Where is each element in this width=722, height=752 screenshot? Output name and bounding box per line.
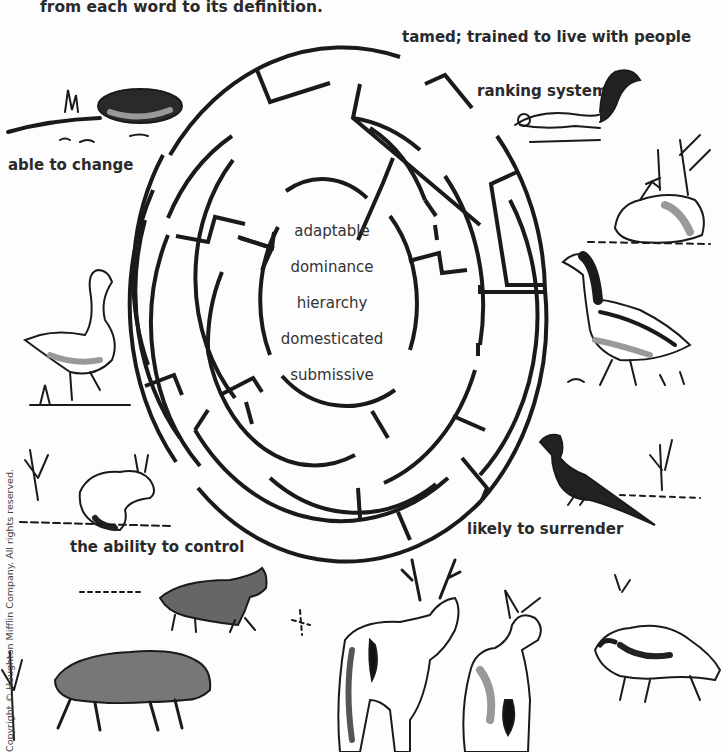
wolf-small-illustration [80,568,310,635]
squirrel-illustration [515,70,640,142]
illustrations [0,0,722,752]
wolf-large-illustration [2,651,210,740]
pheasant-illustration [540,435,700,525]
mole-illustration [8,89,182,142]
stag-illustration [338,560,460,752]
goose-right-illustration [563,254,690,385]
doe-illustration [463,590,541,752]
copyright-notice: Copyright © Houghton Mifflin Company. Al… [4,469,15,752]
hare-illustration [20,450,170,530]
rabbit-sitting-illustration [588,135,710,244]
goose-left-illustration [25,270,130,405]
raccoon-illustration [595,575,720,702]
